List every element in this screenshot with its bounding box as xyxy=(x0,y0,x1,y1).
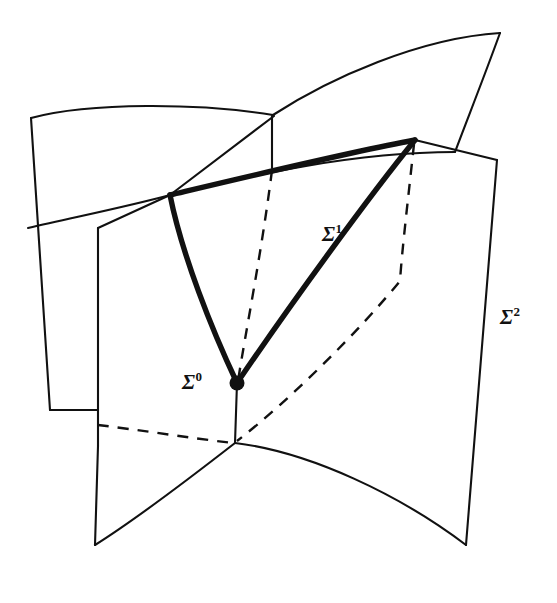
sigma1-label-superscript: 1 xyxy=(336,221,343,236)
sigma1-label: Σ1 xyxy=(322,222,342,245)
right-sheet-top-edge xyxy=(415,140,497,160)
lower-fin-left-curve xyxy=(95,443,235,545)
left-sheet-top-edge xyxy=(31,106,273,118)
sigma0-to-junction-edge xyxy=(235,383,237,443)
sigma0-label-superscript: 0 xyxy=(196,369,203,384)
sigma1-curve-right xyxy=(237,140,415,383)
lower-fin-right-curve xyxy=(235,443,466,545)
sigma0-label-base: Σ xyxy=(182,370,195,394)
sigma2-label: Σ2 xyxy=(500,305,520,328)
hidden-edge-center xyxy=(238,170,272,381)
sigma1-curve-left xyxy=(170,195,237,383)
sigma2-sheet-right xyxy=(415,140,497,545)
stratified-surface-figure xyxy=(0,0,557,603)
left-sheet-upper-right-edge xyxy=(98,195,170,228)
sigma2-label-base: Σ xyxy=(500,305,513,329)
sigma2-label-superscript: 2 xyxy=(514,304,521,319)
hidden-edge-bottom xyxy=(98,425,233,443)
upper-fin-top-curve xyxy=(273,33,500,115)
hidden-edges xyxy=(98,144,414,443)
sigma2-sheet-lower-fin xyxy=(95,443,466,545)
sigma1-curves xyxy=(170,140,415,383)
sigma1-label-base: Σ xyxy=(322,222,335,246)
upper-fin-base-curve xyxy=(170,152,455,195)
sigma0-label: Σ0 xyxy=(182,370,202,393)
hidden-edge-right xyxy=(237,144,414,441)
diagram-canvas: Σ0 Σ1 Σ2 xyxy=(0,0,557,603)
lower-fin-left-edge xyxy=(95,446,98,545)
upper-fin-right-edge xyxy=(455,33,500,152)
sigma2-sheet-upper-fin xyxy=(170,33,500,195)
left-sheet-inner-curve xyxy=(28,195,170,228)
sigma0-point-marker xyxy=(230,376,245,391)
right-sheet-right-edge xyxy=(466,160,497,545)
left-sheet-left-edge xyxy=(31,118,50,410)
